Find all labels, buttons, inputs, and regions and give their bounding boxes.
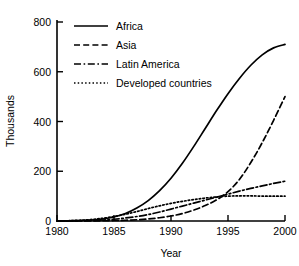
y-axis-title: Thousands	[4, 95, 16, 147]
x-axis-tick-labels: 19801985199019952000	[45, 225, 297, 237]
line-chart: 0200400600800 19801985199019952000 Afric…	[0, 0, 299, 266]
y-tick-label: 600	[33, 66, 51, 78]
x-tick-label: 1995	[216, 225, 240, 237]
series-line-asia	[57, 97, 285, 221]
y-tick-label: 800	[33, 16, 51, 28]
y-tick-label: 200	[33, 165, 51, 177]
axes-group	[57, 20, 285, 221]
chart-canvas: 0200400600800 19801985199019952000 Afric…	[0, 0, 299, 266]
x-tick-label: 2000	[273, 225, 297, 237]
legend-label-asia: Asia	[116, 39, 137, 51]
legend-label-latin-america: Latin America	[116, 58, 180, 70]
chart-legend: AfricaAsiaLatin AmericaDeveloped countri…	[74, 20, 212, 89]
y-tick-label: 400	[33, 116, 51, 128]
y-axis-tick-labels: 0200400600800	[33, 16, 51, 227]
x-tick-label: 1985	[102, 225, 126, 237]
series-line-africa	[57, 44, 285, 221]
series-group	[57, 44, 285, 221]
x-tick-label: 1990	[159, 225, 183, 237]
y-axis-ticks	[57, 22, 63, 171]
legend-label-developed-countries: Developed countries	[116, 77, 212, 89]
x-tick-label: 1980	[45, 225, 69, 237]
x-axis-title: Year	[160, 247, 182, 259]
legend-label-africa: Africa	[116, 20, 143, 32]
